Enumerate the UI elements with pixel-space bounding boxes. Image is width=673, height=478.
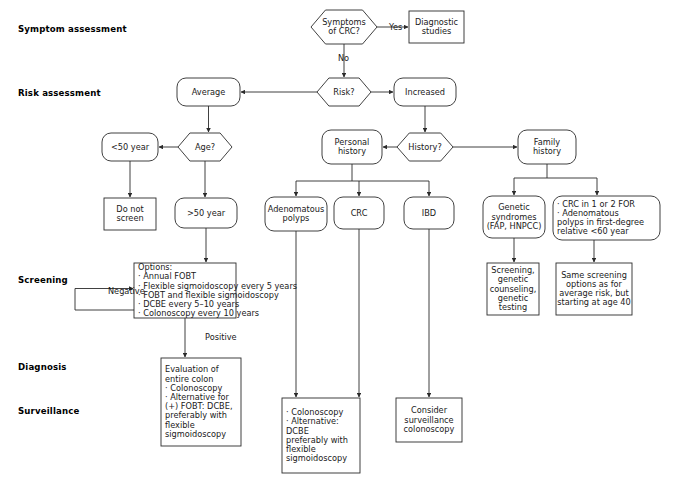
- svg-text:Age?: Age?: [195, 142, 215, 152]
- svg-text:history: history: [533, 146, 561, 156]
- svg-text:CRC: CRC: [351, 208, 368, 218]
- node-label-surveillance-colonoscopy-crc: · Colonoscopy· Alternative: DCBE prefera…: [286, 407, 348, 463]
- svg-text:history: history: [338, 146, 366, 156]
- svg-text:· Colonoscopy every 10 years: · Colonoscopy every 10 years: [138, 308, 259, 318]
- svg-text:Risk?: Risk?: [333, 87, 354, 97]
- stage-label-screening: Screening: [18, 275, 68, 285]
- node-label-history-decision: History?: [408, 142, 441, 152]
- node-label-over-50: >50 year: [187, 208, 226, 218]
- svg-text:<50 year: <50 year: [111, 142, 150, 152]
- node-label-age-decision: Age?: [195, 142, 215, 152]
- flowchart-canvas: Symptomsof CRC?DiagnosticstudiesRisk?Ave…: [0, 0, 673, 478]
- flowchart-svg: Symptomsof CRC?DiagnosticstudiesRisk?Ave…: [0, 0, 673, 478]
- svg-text:screen: screen: [116, 213, 143, 223]
- node-label-increased: Increased: [405, 87, 445, 97]
- svg-text:polyps: polyps: [283, 213, 310, 223]
- svg-text:Average: Average: [192, 87, 226, 97]
- svg-text:colonoscopy: colonoscopy: [404, 424, 455, 434]
- svg-text:IBD: IBD: [422, 208, 436, 218]
- stage-label-surveillance: Surveillance: [18, 406, 79, 416]
- node-label-family-history: Familyhistory: [533, 137, 561, 156]
- node-label-same-screening: Same screeningoptions as foraverage risk…: [557, 270, 630, 308]
- edge-label-positive-label: Positive: [205, 332, 237, 342]
- node-label-under-50: <50 year: [111, 142, 150, 152]
- svg-text:sigmoidoscopy: sigmoidoscopy: [286, 453, 347, 463]
- node-label-average: Average: [192, 87, 226, 97]
- svg-text:studies: studies: [422, 26, 451, 36]
- node-label-symptoms-crc: Symptomsof CRC?: [322, 17, 366, 36]
- node-label-personal-history: Personalhistory: [335, 137, 370, 156]
- stage-label-symptom: Symptom assessment: [18, 24, 127, 34]
- edge-label-negative-label: Negative: [108, 286, 145, 296]
- stage-label-diagnosis: Diagnosis: [18, 362, 67, 372]
- svg-text:relative <60 year: relative <60 year: [557, 226, 629, 236]
- edge-label-no-label: No: [338, 53, 349, 63]
- node-label-do-not-screen: Do notscreen: [116, 204, 144, 223]
- svg-text:of CRC?: of CRC?: [328, 26, 360, 36]
- svg-text:starting at age 40: starting at age 40: [557, 297, 630, 307]
- svg-text:History?: History?: [408, 142, 441, 152]
- svg-text:>50 year: >50 year: [187, 208, 226, 218]
- edge-label-yes-label: Yes: [388, 22, 402, 32]
- svg-text:sigmoidoscopy: sigmoidoscopy: [165, 429, 226, 439]
- svg-text:testing: testing: [499, 302, 527, 312]
- node-label-risk-decision: Risk?: [333, 87, 354, 97]
- svg-text:(FAP, HNPCC): (FAP, HNPCC): [487, 221, 542, 231]
- node-label-ibd: IBD: [422, 208, 436, 218]
- node-label-consider-surveillance: Considersurveillancecolonoscopy: [404, 405, 455, 433]
- stage-label-risk: Risk assessment: [18, 88, 101, 98]
- node-label-crc: CRC: [351, 208, 368, 218]
- svg-text:Increased: Increased: [405, 87, 445, 97]
